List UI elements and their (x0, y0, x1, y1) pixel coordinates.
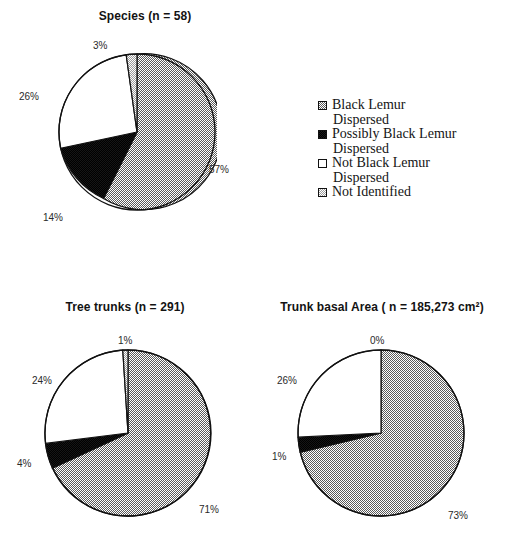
legend-swatch-not-identified-icon (318, 188, 327, 197)
chart-trunk-basal-area-label-possibly-black-lemur: 1% (272, 451, 286, 462)
chart-species-label-black-lemur: 57% (209, 164, 229, 175)
chart-tree-trunks-label-not-black-lemur: 24% (32, 375, 52, 386)
pie-slices (45, 350, 211, 516)
chart-species-pie-svg (57, 52, 217, 212)
chart-species-label-not-identified: 3% (93, 40, 107, 51)
slice-not-black-lemur-dispersed (59, 55, 137, 149)
legend-swatch-possibly-black-lemur-dispersed-icon (318, 130, 327, 139)
chart-trunk-basal-area-label-not-black-lemur: 26% (277, 375, 297, 386)
chart-species-title: Species (n = 58) (0, 9, 290, 23)
chart-tree-trunks-title: Tree trunks (n = 291) (0, 300, 250, 314)
legend-swatch-black-lemur-dispersed-icon (318, 101, 327, 110)
legend-item-black-lemur-dispersed[interactable]: Black Lemur (318, 98, 508, 113)
chart-tree-trunks-label-possibly-black-lemur: 4% (17, 458, 31, 469)
legend-label-black-lemur-dispersed: Black Lemur (332, 98, 405, 113)
legend-label-black-lemur-dispersed-line2: Dispersed (318, 113, 508, 128)
slice-not-black-lemur-dispersed (45, 350, 128, 443)
chart-trunk-basal-area-title: Trunk basal Area ( n = 185,273 cm²) (256, 300, 508, 314)
chart-tree-trunks-pie-svg (43, 348, 213, 518)
chart-trunk-basal-area: Trunk basal Area ( n = 185,273 cm²) 0% 2… (256, 295, 511, 557)
pie-slices (298, 350, 464, 516)
legend-label-possibly-black-lemur-dispersed-line2: Dispersed (318, 142, 508, 157)
chart-species-label-possibly-black-lemur: 14% (43, 212, 63, 223)
chart-tree-trunks-pie (43, 348, 213, 518)
legend-item-possibly-black-lemur-dispersed[interactable]: Possibly Black Lemur (318, 127, 508, 142)
legend-swatch-not-black-lemur-dispersed-icon (318, 159, 327, 168)
chart-tree-trunks: Tree trunks (n = 291) 1% 24% 4% 71% (0, 295, 255, 557)
legend-label-not-black-lemur-dispersed: Not Black Lemur (332, 156, 430, 171)
chart-species-pie (57, 52, 217, 212)
slice-not-black-lemur-dispersed (298, 350, 381, 437)
legend-label-not-identified: Not Identified (332, 185, 411, 200)
chart-species: Species (n = 58) 3% 26% 14% 57% (0, 0, 300, 270)
legend-label-possibly-black-lemur-dispersed: Possibly Black Lemur (332, 127, 456, 142)
legend-label-not-black-lemur-dispersed-line2: Dispersed (318, 171, 508, 186)
chart-trunk-basal-area-label-black-lemur: 73% (448, 510, 468, 521)
legend: Black Lemur Dispersed Possibly Black Lem… (318, 98, 508, 200)
legend-item-not-identified[interactable]: Not Identified (318, 185, 508, 200)
chart-tree-trunks-label-black-lemur: 71% (199, 504, 219, 515)
chart-trunk-basal-area-label-not-identified: 0% (370, 335, 384, 346)
chart-species-label-not-black-lemur: 26% (19, 91, 39, 102)
legend-item-not-black-lemur-dispersed[interactable]: Not Black Lemur (318, 156, 508, 171)
chart-trunk-basal-area-pie (296, 348, 466, 518)
chart-tree-trunks-label-not-identified: 1% (118, 335, 132, 346)
chart-trunk-basal-area-pie-svg (296, 348, 466, 518)
